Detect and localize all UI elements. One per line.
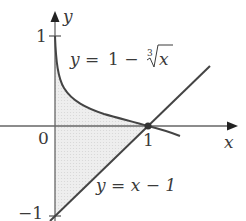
curve-label-rhs-prefix: 1 − [108,49,144,69]
x-axis-arrow-icon [227,122,238,131]
y-tick-label-1: 1 [36,26,47,46]
intersection-point [145,123,152,130]
curve-label-radicand: x [159,49,169,69]
cube-root-curve-label: y = 1 − 3 x [69,45,173,69]
y-axis-arrow-icon [51,11,60,22]
x-tick-label-1: 1 [143,130,154,150]
origin-label: 0 [38,128,49,148]
y-axis-label: y [62,6,73,26]
y-tick-label-neg1: −1 [18,203,43,221]
diagram-canvas: y x 1 0 1 −1 y = 1 − 3 x y = x − 1 [0,0,246,221]
x-axis-label: x [224,132,234,152]
curve-label-root-index: 3 [147,48,153,58]
line-label: y = x − 1 [95,175,176,195]
curve-label-lhs: y = [69,49,105,69]
